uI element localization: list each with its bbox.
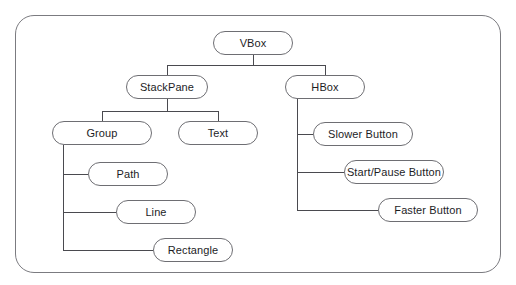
node-start-pause-button[interactable]: Start/Pause Button <box>344 160 444 184</box>
node-path[interactable]: Path <box>88 162 168 186</box>
node-slower-button[interactable]: Slower Button <box>313 122 413 146</box>
node-stackpane[interactable]: StackPane <box>126 75 208 99</box>
node-rectangle[interactable]: Rectangle <box>153 238 233 262</box>
node-text[interactable]: Text <box>178 121 258 145</box>
node-vbox[interactable]: VBox <box>213 31 293 55</box>
node-faster-button[interactable]: Faster Button <box>378 198 478 222</box>
diagram-canvas: VBox StackPane HBox Group Text Path Line… <box>0 0 516 285</box>
node-line[interactable]: Line <box>116 200 196 224</box>
node-group[interactable]: Group <box>52 121 152 145</box>
node-hbox[interactable]: HBox <box>285 75 365 99</box>
